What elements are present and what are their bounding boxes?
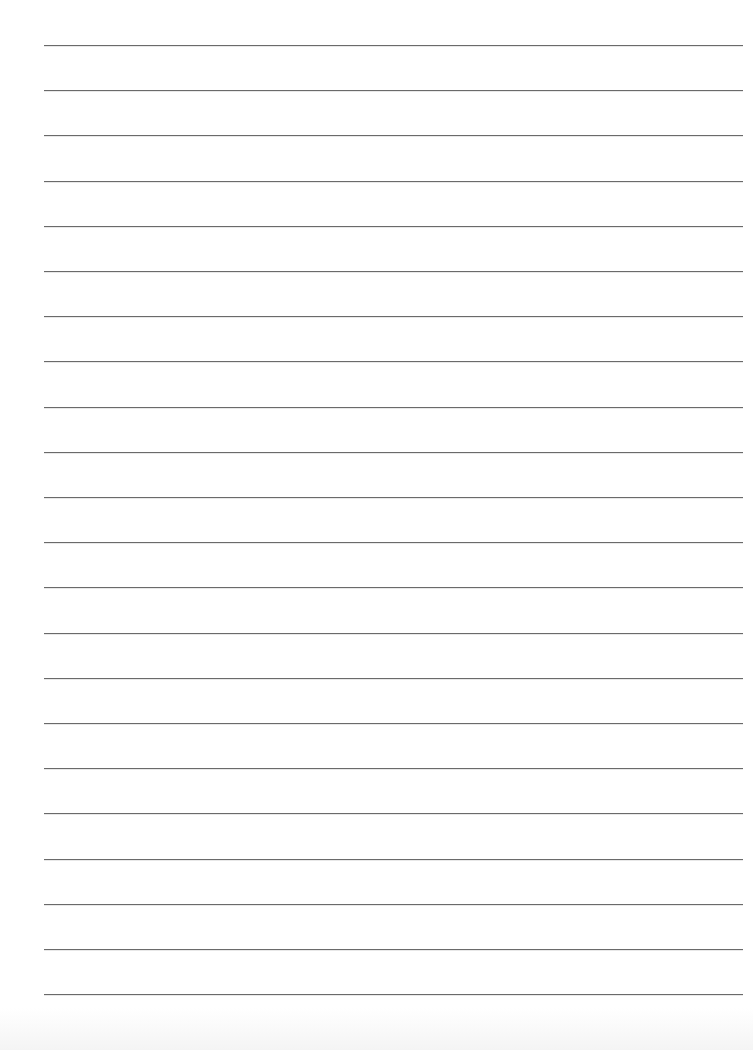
ruled-line: [44, 768, 743, 769]
ruled-line: [44, 633, 743, 634]
ruled-line: [44, 497, 743, 498]
lined-paper-page: [0, 0, 753, 1050]
ruled-line: [44, 859, 743, 860]
ruled-line: [44, 994, 743, 995]
ruled-line: [44, 723, 743, 724]
ruled-line: [44, 181, 743, 182]
ruled-line: [44, 949, 743, 950]
ruled-line: [44, 226, 743, 227]
ruled-line: [44, 316, 743, 317]
ruled-line: [44, 678, 743, 679]
ruled-line: [44, 90, 743, 91]
ruled-line: [44, 542, 743, 543]
ruled-line: [44, 135, 743, 136]
ruled-line: [44, 361, 743, 362]
ruled-line: [44, 813, 743, 814]
ruled-line: [44, 587, 743, 588]
ruled-line: [44, 271, 743, 272]
ruled-line: [44, 904, 743, 905]
ruled-line: [44, 407, 743, 408]
ruled-line: [44, 45, 743, 46]
ruled-line: [44, 452, 743, 453]
